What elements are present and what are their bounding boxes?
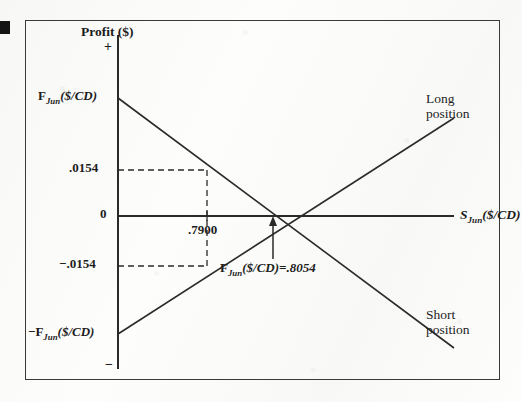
short-position-label-line1: Short [426,307,470,322]
long-position-label-line2: position [426,106,470,121]
spot-rate-units: ($/CD) [482,207,520,222]
long-position-label-line1: Long [426,91,470,106]
y-tick-label-profit-positive: .0154 [69,161,98,176]
y-axis-negative-symbol: − [105,357,113,373]
plot-area: Profit ($) + − FJun($/CD) .0154 0 −.0154… [26,21,499,379]
x-axis-label: SJun($/CD) [460,207,521,225]
annotation-subscript: Jun [228,268,242,278]
forward-rate-negative-units: ($/CD) [58,324,95,339]
short-position-line [118,98,454,348]
long-position-label: Long position [426,91,470,121]
annotation-value: ($/CD)=.8054 [242,260,316,275]
y-tick-label-forward-rate-negative: −FJun($/CD) [28,325,94,342]
short-position-label-line2: position [426,322,470,337]
forward-rate-subscript: Jun [46,96,60,106]
forward-rate-negative-subscript: Jun [43,332,57,342]
figure-frame: Profit ($) + − FJun($/CD) .0154 0 −.0154… [25,20,500,380]
page-corner-mark [0,21,10,34]
annotation-symbol: F [220,260,228,275]
x-tick-label-spot-rate: .7900 [188,223,217,238]
y-tick-label-zero: 0 [100,207,107,222]
spot-rate-subscript: Jun [468,215,483,225]
short-position-label: Short position [426,307,470,337]
y-tick-label-profit-negative: −.0154 [59,257,96,272]
forward-rate-negative-symbol: −F [28,324,43,339]
y-axis-positive-symbol: + [104,39,112,55]
forward-rate-units: ($/CD) [60,88,97,103]
intersection-annotation: FJun($/CD)=.8054 [220,261,316,278]
figure-canvas: Profit ($) + − FJun($/CD) .0154 0 −.0154… [0,0,522,402]
long-position-line [118,118,454,334]
forward-rate-symbol: F [38,88,46,103]
y-axis-title: Profit ($) [81,24,134,39]
y-tick-label-forward-rate-positive: FJun($/CD) [38,89,97,106]
annotation-arrow-head [269,216,277,226]
spot-rate-symbol: S [460,207,468,222]
